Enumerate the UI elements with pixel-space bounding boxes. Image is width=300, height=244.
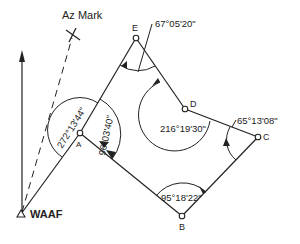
station-label-waaf: WAAF	[30, 208, 63, 220]
angle-label-c: 65°13'08"	[237, 115, 278, 126]
leader-e	[138, 24, 152, 72]
az-mark-cross-icon	[66, 28, 80, 42]
station-b-marker	[179, 213, 185, 219]
station-label-d: D	[190, 99, 197, 109]
angle-label-d: 216°19'30"	[160, 123, 206, 134]
angle-label-e: 67°05'20"	[155, 18, 196, 29]
station-label-e: E	[132, 23, 138, 33]
station-label-b: B	[179, 222, 185, 232]
angle-label-a-96: 96°03'40"	[96, 114, 115, 156]
arrowhead-c	[223, 138, 230, 146]
leader-c	[232, 120, 236, 127]
station-label-c: C	[263, 132, 270, 142]
arrowhead-d	[152, 78, 160, 86]
az-mark-line	[22, 38, 72, 212]
station-d-marker	[182, 106, 188, 112]
north-arrow-icon	[19, 50, 25, 212]
station-label-a: A	[76, 140, 82, 149]
az-mark-label: Az Mark	[62, 9, 103, 21]
traverse-diagram: Az Mark 272°13'44" 96°03'40" 67°05'20" 2…	[0, 0, 300, 244]
station-e-marker	[133, 35, 139, 41]
angle-label-b: 95°18'22"	[161, 192, 202, 203]
angle-arc-d	[139, 82, 210, 151]
station-c-marker	[255, 134, 261, 140]
station-a-marker	[77, 130, 83, 136]
traverse-lines	[21, 38, 258, 216]
